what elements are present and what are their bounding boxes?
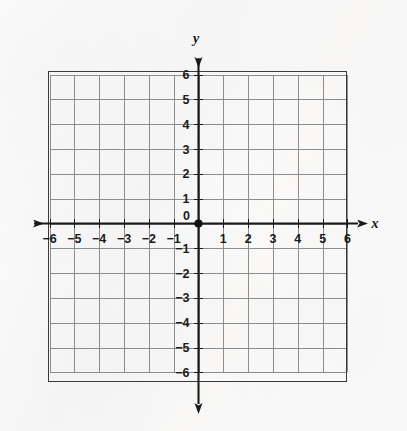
y-axis-tick-label: −5 xyxy=(175,341,189,355)
coordinate-plane-figure: −6−5−4−3−2−1123456 −6−5−4−3−2−1123456 0 … xyxy=(0,0,407,431)
y-axis-tick-label: 2 xyxy=(183,167,190,181)
x-axis-tick-label: −6 xyxy=(42,232,56,246)
origin-label: 0 xyxy=(183,209,190,223)
x-axis-tick-label: 1 xyxy=(220,232,227,246)
y-axis-tick-label: 5 xyxy=(183,93,190,107)
y-axis-tick-label: 3 xyxy=(183,143,190,157)
x-axis-label: x xyxy=(371,216,379,231)
x-axis-tick-label: 6 xyxy=(344,232,351,246)
x-axis-tick-label: 5 xyxy=(319,232,326,246)
y-axis-tick-label: 1 xyxy=(183,192,190,206)
x-axis-tick-label: −3 xyxy=(117,232,131,246)
x-axis-tick-label: −5 xyxy=(67,232,81,246)
y-axis-tick-label: 6 xyxy=(183,68,190,82)
y-axis-tick-label: −1 xyxy=(175,242,189,256)
x-axis-tick-label: 3 xyxy=(270,232,277,246)
y-axis-tick-label: −6 xyxy=(175,366,189,380)
x-axis-tick-label: −4 xyxy=(92,232,106,246)
y-axis-tick-label: 4 xyxy=(183,118,190,132)
y-axis-tick-label: −4 xyxy=(175,316,189,330)
origin-point-marker xyxy=(194,219,202,227)
y-axis-tick-label: −3 xyxy=(175,291,189,305)
x-axis-tick-label: 4 xyxy=(294,232,301,246)
coordinate-plane-canvas: −6−5−4−3−2−1123456 −6−5−4−3−2−1123456 0 … xyxy=(0,0,407,431)
y-axis-label: y xyxy=(191,31,200,46)
x-axis-tick-labels: −6−5−4−3−2−1123456 xyxy=(42,232,351,246)
x-axis-tick-label: 2 xyxy=(245,232,252,246)
x-axis-tick-label: −2 xyxy=(142,232,156,246)
y-axis-tick-label: −2 xyxy=(175,267,189,281)
